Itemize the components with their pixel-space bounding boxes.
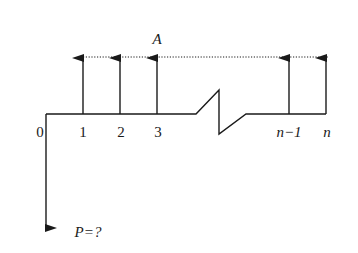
period-label: 1 (79, 124, 87, 140)
period-label: n−1 (276, 124, 301, 140)
origin-label: 0 (36, 124, 44, 140)
period-label: 3 (154, 124, 162, 140)
period-label: 2 (117, 124, 125, 140)
annuity-label: A (151, 31, 162, 47)
cash-flow-diagram: A 0 1 2 3 n−1 n P=? (0, 0, 358, 253)
period-label: n (323, 124, 331, 140)
present-value-label: P=? (74, 224, 102, 240)
